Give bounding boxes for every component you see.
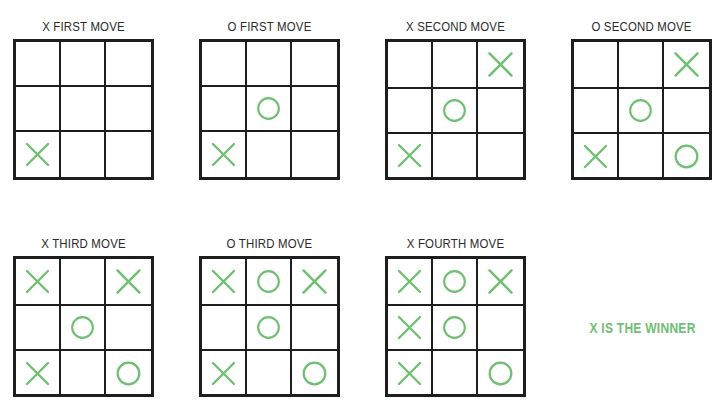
grid-cell[interactable] <box>388 259 433 306</box>
grid-cell[interactable] <box>664 42 709 89</box>
board-title: X FIRST MOVE <box>21 19 145 34</box>
grid-cell[interactable] <box>619 134 664 179</box>
grid-cell[interactable] <box>433 351 478 396</box>
grid-cell[interactable] <box>292 351 337 396</box>
x-mark-icon <box>664 42 709 87</box>
tic-tac-toe-grid <box>13 39 154 180</box>
tic-tac-toe-grid <box>13 256 154 397</box>
grid-cell[interactable] <box>433 134 478 177</box>
grid-cell[interactable] <box>16 351 61 396</box>
x-mark-icon <box>388 134 431 177</box>
o-mark-icon <box>247 259 290 304</box>
o-mark-icon <box>433 306 476 349</box>
o-mark-icon <box>664 134 709 179</box>
grid-cell[interactable] <box>16 132 61 177</box>
tic-tac-toe-grid <box>385 39 526 180</box>
grid-cell[interactable] <box>388 89 433 134</box>
x-mark-icon <box>106 259 151 304</box>
board-title: O SECOND MOVE <box>579 19 703 34</box>
grid-cell[interactable] <box>478 42 523 89</box>
board-panel: X FIRST MOVE <box>13 19 154 180</box>
grid-cell[interactable] <box>61 351 106 396</box>
grid-cell[interactable] <box>247 351 292 396</box>
x-mark-icon <box>202 259 245 304</box>
grid-cell[interactable] <box>433 306 478 351</box>
grid-cell[interactable] <box>388 306 433 351</box>
grid-cell[interactable] <box>574 89 619 134</box>
x-mark-icon <box>292 259 337 304</box>
grid-cell[interactable] <box>388 134 433 177</box>
grid-cell[interactable] <box>247 42 292 87</box>
x-mark-icon <box>16 351 59 396</box>
grid-cell[interactable] <box>106 42 151 87</box>
grid-cell[interactable] <box>664 89 709 134</box>
grid-cell[interactable] <box>202 351 247 396</box>
grid-cell[interactable] <box>433 259 478 306</box>
grid-cell[interactable] <box>247 132 292 177</box>
o-mark-icon <box>433 259 476 304</box>
grid-cell[interactable] <box>388 42 433 89</box>
x-mark-icon <box>388 351 431 396</box>
grid-cell[interactable] <box>106 306 151 351</box>
grid-cell[interactable] <box>574 42 619 89</box>
grid-cell[interactable] <box>292 259 337 306</box>
grid-cell[interactable] <box>16 306 61 351</box>
grid-cell[interactable] <box>16 259 61 306</box>
grid-cell[interactable] <box>106 132 151 177</box>
board-title: O FIRST MOVE <box>207 19 331 34</box>
grid-cell[interactable] <box>61 132 106 177</box>
grid-cell[interactable] <box>292 306 337 351</box>
grid-cell[interactable] <box>106 351 151 396</box>
o-mark-icon <box>61 306 104 349</box>
o-mark-icon <box>619 89 662 132</box>
x-mark-icon <box>16 259 59 304</box>
x-mark-icon <box>478 259 523 304</box>
grid-cell[interactable] <box>292 87 337 132</box>
grid-cell[interactable] <box>292 132 337 177</box>
grid-cell[interactable] <box>61 42 106 87</box>
grid-cell[interactable] <box>106 259 151 306</box>
grid-cell[interactable] <box>202 259 247 306</box>
grid-cell[interactable] <box>619 89 664 134</box>
grid-cell[interactable] <box>202 42 247 87</box>
tic-tac-toe-grid <box>199 39 340 180</box>
x-mark-icon <box>574 134 617 179</box>
grid-cell[interactable] <box>106 87 151 132</box>
grid-cell[interactable] <box>292 42 337 87</box>
board-panel: O SECOND MOVE <box>571 19 712 180</box>
tic-tac-toe-grid <box>571 39 712 180</box>
grid-cell[interactable] <box>478 89 523 134</box>
grid-cell[interactable] <box>247 259 292 306</box>
grid-cell[interactable] <box>478 259 523 306</box>
grid-cell[interactable] <box>574 134 619 179</box>
grid-cell[interactable] <box>202 87 247 132</box>
board-title: X THIRD MOVE <box>21 236 145 251</box>
board-panel: O FIRST MOVE <box>199 19 340 180</box>
x-mark-icon <box>388 259 431 304</box>
x-mark-icon <box>16 132 59 177</box>
grid-cell[interactable] <box>247 87 292 132</box>
grid-cell[interactable] <box>202 132 247 177</box>
grid-cell[interactable] <box>16 42 61 87</box>
o-mark-icon <box>247 87 290 130</box>
grid-cell[interactable] <box>478 306 523 351</box>
grid-cell[interactable] <box>16 87 61 132</box>
grid-cell[interactable] <box>61 259 106 306</box>
board-panel: X THIRD MOVE <box>13 236 154 397</box>
grid-cell[interactable] <box>247 306 292 351</box>
grid-cell[interactable] <box>433 42 478 89</box>
grid-cell[interactable] <box>478 351 523 396</box>
grid-cell[interactable] <box>61 87 106 132</box>
grid-cell[interactable] <box>433 89 478 134</box>
grid-cell[interactable] <box>388 351 433 396</box>
x-mark-icon <box>202 132 245 177</box>
o-mark-icon <box>247 306 290 349</box>
grid-cell[interactable] <box>619 42 664 89</box>
o-mark-icon <box>433 89 476 132</box>
grid-cell[interactable] <box>664 134 709 179</box>
grid-cell[interactable] <box>61 306 106 351</box>
x-mark-icon <box>478 42 523 87</box>
grid-cell[interactable] <box>478 134 523 177</box>
grid-cell[interactable] <box>202 306 247 351</box>
board-title: X FOURTH MOVE <box>393 236 517 251</box>
